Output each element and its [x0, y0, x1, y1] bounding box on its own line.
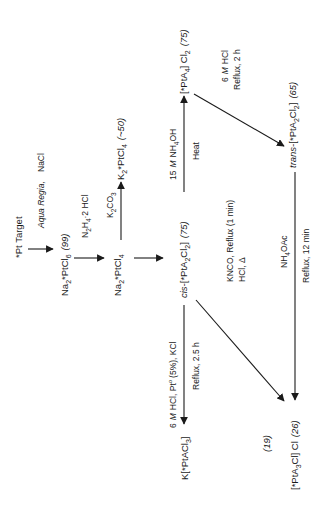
cis-ptacl-label: cis-[*PtA2Cl2](75)	[178, 221, 191, 298]
nacl-label: NaCl	[36, 153, 46, 172]
reaction-scheme: *Pt Target Aqua Regia, NaCl Na2*PtCl6(99…	[0, 0, 320, 521]
nh4oac-label: NH4OAc	[279, 235, 291, 268]
na2ptcl4-label: Na2*PtCl4	[112, 254, 125, 296]
arrow-cis-to-pta3cl	[196, 300, 284, 401]
reflux-2h-label: Reflux, 2 h	[232, 49, 242, 90]
pt-target-label: *Pt Target	[13, 216, 24, 258]
pta3cl-label: [*PtA3Cl] Cl(26)	[289, 420, 302, 490]
hcl6-label: 6MHCl	[220, 50, 230, 82]
na2ptcl6-label: Na2*PtCl6(99)	[59, 233, 72, 296]
n2h4-label: N2H4·2 HCl	[80, 194, 92, 238]
arrow-pta4-to-trans	[194, 94, 284, 146]
aqua-regia-label: Aqua Regia,	[36, 181, 46, 229]
trans-ptacl-label: trans-[*PtA2Cl2](65)	[287, 82, 300, 168]
knco-label: KNCO, Reflux (1 min)	[225, 200, 235, 282]
hcl-delta-label: HCl, Δ	[237, 257, 247, 282]
nh4oh-label: 15MNH4OH	[168, 129, 180, 180]
k2co3-label: K2CO3	[105, 192, 117, 218]
reflux-25h-label: Reflux, 2.5 h	[191, 342, 201, 390]
heat-label: Heat	[191, 141, 201, 160]
yield-19-label: (19)	[261, 435, 272, 452]
pta4-label: [*PtA4] Cl2(75)	[178, 29, 191, 94]
kptacl3-label: K[*PtACl3]	[179, 436, 192, 480]
reflux-12min-label: Reflux, 12 min	[301, 228, 311, 283]
k2ptcl4-label: K2*PtCl4(~50)	[115, 118, 128, 180]
hcl-pt-kcl-label: 6MHCl, Pto(5%), KCl	[167, 341, 178, 428]
